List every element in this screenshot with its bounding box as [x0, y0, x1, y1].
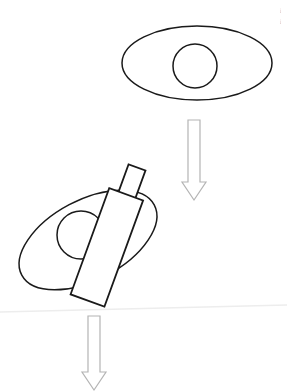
micro-injector	[71, 161, 153, 307]
arrow-step-2-to-3	[82, 316, 106, 390]
down-arrow-icon	[182, 120, 206, 200]
step-2-cell-injector-group	[3, 161, 173, 311]
outer-ellipse	[122, 26, 272, 100]
step-1-cell-group	[122, 26, 272, 100]
edge-mark-lower: ⦙	[280, 19, 281, 26]
figure-canvas: ⦙ ⦙	[0, 0, 287, 392]
down-arrow-icon	[82, 316, 106, 390]
inner-circle-nucleus	[173, 44, 217, 88]
injector-body	[71, 188, 143, 306]
schematic-diagram	[0, 0, 287, 392]
scan-fold-line	[0, 305, 287, 312]
arrow-step-1-to-2	[182, 120, 206, 200]
edge-mark-upper: ⦙	[280, 8, 281, 15]
